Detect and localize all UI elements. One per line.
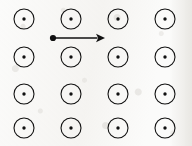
field-marker-center-dot	[69, 92, 72, 95]
field-marker-center-dot	[163, 55, 166, 58]
field-marker-center-dot	[22, 55, 25, 58]
field-out-of-page-icon	[155, 84, 175, 104]
field-marker-center-dot	[163, 92, 166, 95]
field-out-of-page-icon	[61, 9, 81, 29]
field-out-of-page-grid	[14, 9, 175, 138]
field-out-of-page-icon	[155, 118, 175, 138]
field-out-of-page-icon	[155, 47, 175, 67]
field-marker-center-dot	[163, 126, 166, 129]
field-marker-center-dot	[163, 17, 166, 20]
field-marker-center-dot	[69, 17, 72, 20]
field-marker-center-dot	[69, 126, 72, 129]
field-marker-center-dot	[116, 55, 119, 58]
field-out-of-page-icon	[61, 84, 81, 104]
field-diagram-canvas: Uniform magnetic field out of the page w…	[0, 0, 192, 146]
field-marker-center-dot	[116, 17, 119, 20]
field-out-of-page-icon	[14, 9, 34, 29]
field-out-of-page-icon	[108, 9, 128, 29]
field-out-of-page-icon	[14, 47, 34, 67]
field-marker-center-dot	[22, 126, 25, 129]
field-out-of-page-icon	[108, 84, 128, 104]
field-marker-center-dot	[116, 92, 119, 95]
field-marker-center-dot	[69, 55, 72, 58]
field-out-of-page-icon	[61, 118, 81, 138]
field-out-of-page-icon	[155, 9, 175, 29]
field-out-of-page-icon	[108, 118, 128, 138]
field-marker-center-dot	[22, 17, 25, 20]
field-marker-center-dot	[116, 126, 119, 129]
field-out-of-page-icon	[14, 84, 34, 104]
physics-figure: Uniform magnetic field out of the page w…	[0, 0, 192, 146]
field-out-of-page-icon	[14, 118, 34, 138]
velocity-arrow	[50, 34, 105, 42]
field-out-of-page-icon	[61, 47, 81, 67]
field-out-of-page-icon	[108, 47, 128, 67]
field-marker-center-dot	[22, 92, 25, 95]
